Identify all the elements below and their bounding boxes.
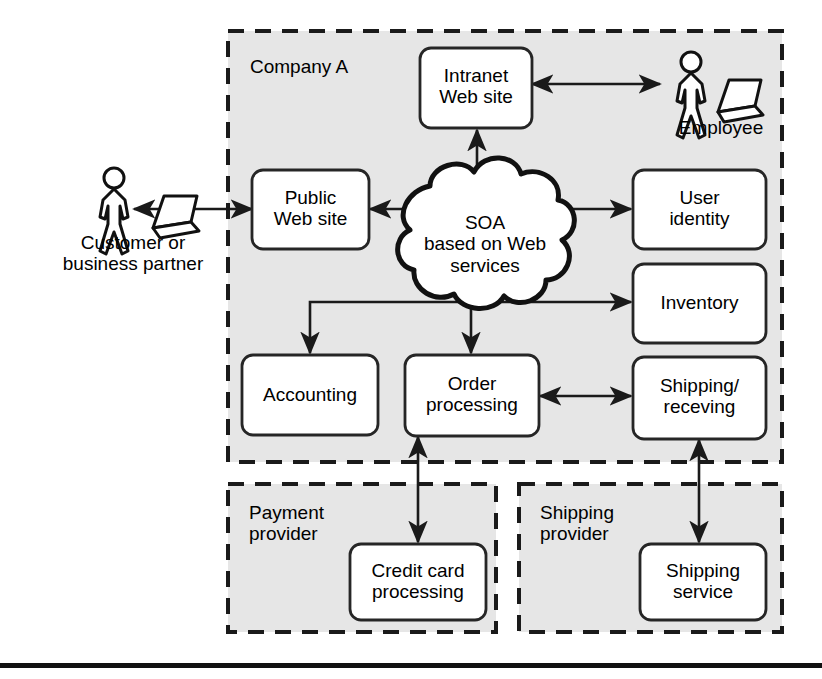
customer-actor-icon (100, 168, 199, 254)
diagram-canvas: Company A Payment provider Shipping prov… (0, 0, 822, 679)
node-order-processing[interactable] (405, 355, 539, 436)
node-user-identity[interactable] (633, 170, 766, 249)
node-shipping-service[interactable] (640, 544, 766, 620)
node-credit-card-processing[interactable] (350, 544, 486, 620)
bottom-rule (0, 663, 822, 668)
node-shipping-receving[interactable] (633, 357, 766, 439)
node-accounting[interactable] (242, 355, 378, 435)
node-intranet-web-site[interactable] (420, 48, 532, 128)
node-inventory[interactable] (633, 264, 766, 343)
diagram-vector-layer (0, 0, 822, 679)
node-public-web-site[interactable] (252, 170, 369, 249)
